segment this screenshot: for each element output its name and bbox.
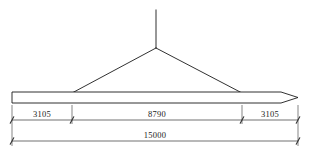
sling-left-leg — [72, 48, 156, 93]
engineering-drawing: 3105 8790 3105 15000 — [0, 0, 320, 160]
lifting-beam — [12, 92, 298, 103]
overall-dimension-line: 15000 — [10, 130, 300, 145]
sling-assembly — [72, 10, 242, 93]
dimension-label-center-8790: 8790 — [148, 109, 166, 119]
chain-dimension-line: 3105 8790 3105 — [10, 109, 300, 124]
dimension-label-overall-15000: 15000 — [144, 130, 167, 140]
sling-right-leg — [156, 48, 242, 93]
beam-outline — [12, 92, 298, 103]
drawing-canvas: 3105 8790 3105 15000 — [0, 0, 320, 160]
dimension-label-left-3105: 3105 — [33, 109, 51, 119]
dimension-label-right-3105: 3105 — [261, 109, 279, 119]
